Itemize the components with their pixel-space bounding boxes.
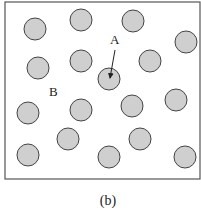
particle bbox=[165, 89, 187, 111]
label-b: B bbox=[49, 84, 58, 99]
particle bbox=[129, 128, 151, 150]
particle bbox=[175, 31, 197, 53]
particle bbox=[70, 99, 92, 121]
particle bbox=[70, 9, 92, 31]
particles-group bbox=[17, 9, 197, 168]
particle bbox=[17, 102, 39, 124]
particle bbox=[70, 50, 92, 72]
particle bbox=[174, 146, 196, 168]
particle bbox=[98, 146, 120, 168]
particle bbox=[27, 57, 49, 79]
particle bbox=[24, 18, 46, 40]
particle bbox=[122, 10, 144, 32]
particle bbox=[98, 68, 120, 90]
figure-caption: (b) bbox=[0, 193, 201, 208]
particle bbox=[17, 144, 39, 166]
particle bbox=[139, 50, 161, 72]
particle bbox=[57, 128, 79, 150]
label-a: A bbox=[110, 32, 120, 47]
particle-diagram: AB bbox=[0, 0, 201, 208]
particle bbox=[121, 95, 143, 117]
